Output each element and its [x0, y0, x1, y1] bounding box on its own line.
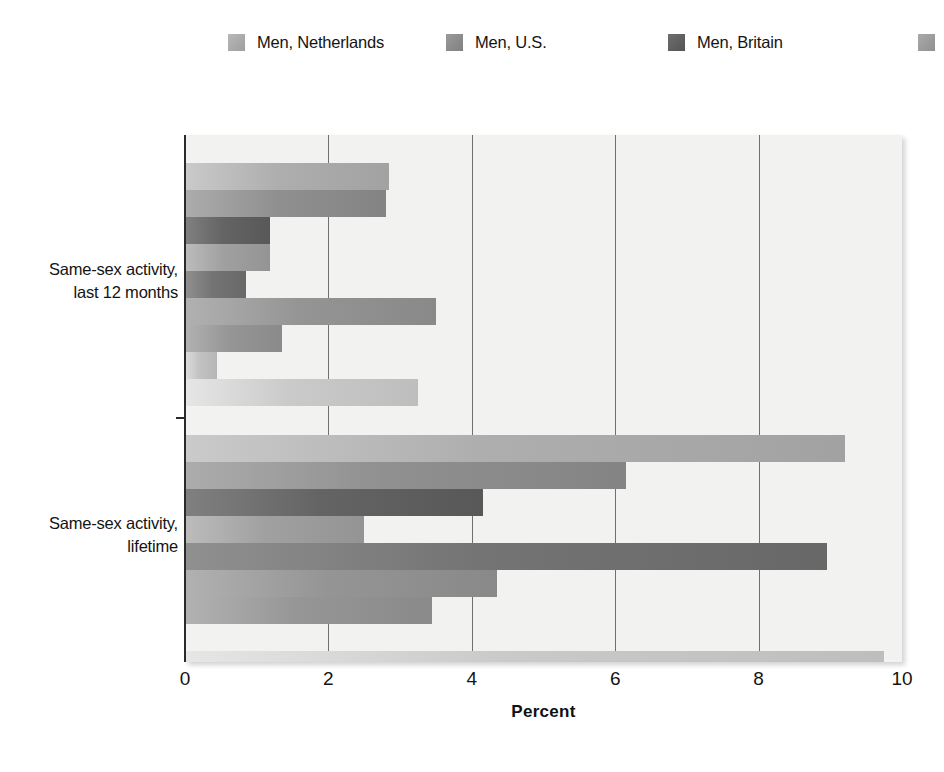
legend-item[interactable]: Men, Britain	[668, 33, 918, 52]
bar	[185, 435, 845, 462]
bar	[185, 651, 884, 662]
category-label-line: Same-sex activity,	[0, 258, 178, 281]
category-label-last-12-months: Same-sex activity, last 12 months	[0, 258, 178, 304]
plot-inner	[185, 135, 902, 662]
bar	[185, 489, 483, 516]
bar	[185, 244, 270, 271]
bar	[185, 379, 418, 406]
category-label-lifetime: Same-sex activity, lifetime	[0, 512, 178, 558]
legend-label: Men, Netherlands	[257, 33, 384, 52]
legend-label: Men, U.S.	[475, 33, 547, 52]
x-tick-label: 0	[155, 668, 215, 690]
group-separator-tick	[176, 417, 186, 419]
legend-item[interactable]: Men, Netherlands	[228, 33, 446, 52]
chart-figure: Men, NetherlandsMen, U.S.Men, BritainMen…	[0, 0, 944, 772]
category-label-line: last 12 months	[0, 281, 178, 304]
bar	[185, 163, 389, 190]
bar	[185, 570, 497, 597]
plot-area	[185, 135, 902, 662]
bar	[185, 217, 270, 244]
gridline	[759, 135, 760, 662]
bar	[185, 597, 432, 624]
x-axis-title: Percent	[185, 702, 902, 722]
bar	[185, 271, 246, 298]
legend-swatch-icon	[446, 34, 463, 51]
bar	[185, 516, 364, 543]
x-tick-label: 2	[298, 668, 358, 690]
bar	[185, 543, 827, 570]
x-tick-label: 4	[442, 668, 502, 690]
bar	[185, 325, 282, 352]
x-tick-label: 6	[585, 668, 645, 690]
legend-item[interactable]: Men, U.S.	[446, 33, 668, 52]
y-axis-line	[184, 135, 186, 662]
category-label-line: lifetime	[0, 535, 178, 558]
legend-swatch-icon	[668, 34, 685, 51]
x-tick-label: 10	[872, 668, 932, 690]
legend-label: Men, Britain	[697, 33, 783, 52]
legend-swatch-icon	[228, 34, 245, 51]
legend-swatch-icon	[918, 34, 935, 51]
gridline	[615, 135, 616, 662]
category-label-line: Same-sex activity,	[0, 512, 178, 535]
bar	[185, 298, 436, 325]
bar	[185, 352, 217, 379]
chart-legend: Men, NetherlandsMen, U.S.Men, BritainMen…	[228, 26, 918, 122]
legend-item[interactable]: Men, France	[918, 33, 944, 52]
bar	[185, 190, 386, 217]
bar	[185, 462, 626, 489]
x-tick-label: 8	[729, 668, 789, 690]
